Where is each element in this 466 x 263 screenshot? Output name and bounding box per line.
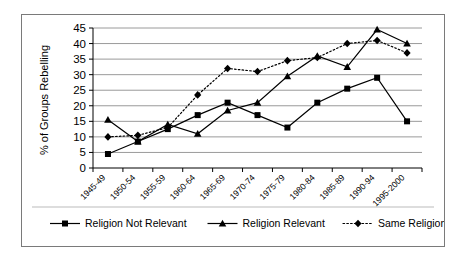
y-gridlines bbox=[89, 28, 422, 168]
marker-square bbox=[404, 118, 410, 124]
x-tick-label: 1965-69 bbox=[198, 172, 228, 202]
marker-square bbox=[344, 86, 350, 92]
marker-square bbox=[255, 112, 261, 118]
marker-diamond bbox=[314, 54, 321, 62]
marker-diamond bbox=[403, 49, 410, 57]
marker-diamond bbox=[134, 132, 141, 140]
chart-plot-area: 051015202530354045% of Groups Rebelling1… bbox=[22, 15, 444, 246]
marker-diamond bbox=[194, 91, 201, 99]
marker-triangle bbox=[104, 116, 112, 123]
series-3 bbox=[104, 37, 410, 141]
legend-item[interactable]: Religion Not Relevant bbox=[50, 217, 187, 229]
legend-label: Religion Relevant bbox=[243, 217, 325, 229]
x-tick-label: 1960-64 bbox=[168, 172, 198, 202]
y-tick-label: 40 bbox=[73, 38, 86, 50]
marker-square bbox=[62, 221, 68, 227]
legend-item[interactable]: Religion Relevant bbox=[208, 217, 325, 229]
marker-diamond bbox=[104, 133, 111, 141]
y-tick-label: 30 bbox=[73, 69, 86, 81]
x-tick-label: 1975-79 bbox=[257, 172, 287, 202]
y-tick-label: 15 bbox=[73, 115, 86, 127]
marker-diamond bbox=[344, 40, 351, 48]
y-axis-title: % of Groups Rebelling bbox=[38, 45, 50, 155]
series-1 bbox=[105, 75, 410, 157]
marker-triangle bbox=[373, 26, 381, 33]
marker-triangle bbox=[284, 72, 292, 79]
chart-legend: Religion Not RelevantReligion RelevantSa… bbox=[32, 207, 444, 229]
marker-square bbox=[105, 151, 111, 157]
marker-square bbox=[284, 125, 290, 131]
line-chart: 051015202530354045% of Groups Rebelling1… bbox=[22, 15, 444, 246]
x-tick-label: 1970-74 bbox=[228, 172, 258, 202]
chart-frame: 051015202530354045% of Groups Rebelling1… bbox=[21, 14, 445, 247]
marker-square bbox=[225, 100, 231, 106]
x-axis-ticks bbox=[93, 168, 422, 172]
legend-label: Same Religion bbox=[378, 217, 444, 229]
y-tick-label: 20 bbox=[73, 100, 86, 112]
y-tick-label: 0 bbox=[80, 162, 86, 174]
x-tick-label: 1945-49 bbox=[78, 172, 108, 202]
x-tick-label: 1950-54 bbox=[108, 172, 138, 202]
y-tick-label: 10 bbox=[73, 131, 86, 143]
series-line bbox=[108, 30, 407, 142]
y-tick-label: 5 bbox=[80, 146, 86, 158]
x-tick-label: 1980-84 bbox=[287, 172, 317, 202]
x-tick-label: 1955-59 bbox=[138, 172, 168, 202]
marker-diamond bbox=[284, 57, 291, 65]
x-tick-label: 1995-2000 bbox=[370, 172, 406, 208]
marker-diamond bbox=[254, 68, 261, 76]
x-tick-label: 1990-94 bbox=[347, 172, 377, 202]
y-tick-label: 35 bbox=[73, 53, 86, 65]
legend-label: Religion Not Relevant bbox=[85, 217, 187, 229]
x-tick-label: 1985-89 bbox=[317, 172, 347, 202]
marker-square bbox=[195, 112, 201, 118]
y-tick-label: 25 bbox=[73, 84, 86, 96]
marker-diamond bbox=[354, 220, 361, 228]
marker-square bbox=[374, 75, 380, 81]
marker-diamond bbox=[374, 37, 381, 45]
marker-square bbox=[314, 100, 320, 106]
y-tick-label: 45 bbox=[73, 22, 86, 34]
legend-item[interactable]: Same Religion bbox=[343, 217, 444, 229]
series-line bbox=[108, 40, 407, 136]
